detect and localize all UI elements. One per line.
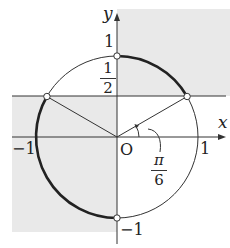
x-axis-label: x (218, 114, 228, 131)
radius-30deg (117, 97, 187, 138)
tick-label-y-top: 1 (104, 34, 114, 50)
unit-circle-diagram (0, 0, 230, 248)
tick-label-x-right: 1 (200, 141, 210, 157)
angle-label-numerator: π (154, 153, 164, 168)
fraction-one-half-numerator: 1 (103, 61, 113, 76)
origin-label: O (120, 142, 133, 158)
fraction-one-half: 1 2 (100, 61, 116, 96)
angle-label-pi-over-6: π 6 (151, 153, 167, 188)
point-30deg (184, 93, 190, 99)
shaded-region-left (12, 96, 117, 232)
x-axis-arrow-icon (218, 134, 226, 140)
y-axis-label: y (103, 5, 113, 22)
point-top (114, 53, 120, 59)
angle-label-denominator: 6 (154, 173, 164, 188)
fraction-one-half-denominator: 2 (103, 81, 113, 96)
angle-leader-line (148, 129, 161, 152)
tick-label-x-left: −1 (12, 141, 36, 157)
point-150deg (44, 93, 50, 99)
tick-label-y-bottom: −1 (120, 222, 144, 238)
shaded-region-upper-right (117, 9, 230, 96)
